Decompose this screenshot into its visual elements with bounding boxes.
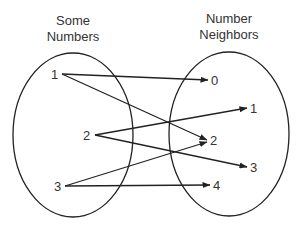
right-set-ellipse	[169, 52, 289, 216]
left-element-3: 3	[54, 179, 61, 194]
right-set-title-line2: Neighbors	[199, 27, 259, 42]
arrow-2-to-3	[95, 135, 247, 167]
right-element-4: 4	[213, 178, 220, 193]
left-set-ellipse	[13, 53, 133, 217]
right-element-3: 3	[250, 160, 257, 175]
left-element-2: 2	[83, 128, 90, 143]
left-element-1: 1	[51, 67, 58, 82]
arrow-3-to-4	[65, 185, 210, 186]
arrow-3-to-2	[65, 142, 207, 186]
right-element-2: 2	[210, 133, 217, 148]
left-set-title-line2: Numbers	[47, 29, 100, 44]
right-element-1: 1	[250, 101, 257, 116]
diagram-svg: Some Numbers Number Neighbors 1 2 3 0 1 …	[0, 0, 300, 228]
right-set-title-line1: Number	[206, 11, 253, 26]
left-set-title-line1: Some	[56, 13, 90, 28]
right-element-0: 0	[211, 73, 218, 88]
mapping-diagram: Some Numbers Number Neighbors 1 2 3 0 1 …	[0, 0, 300, 228]
